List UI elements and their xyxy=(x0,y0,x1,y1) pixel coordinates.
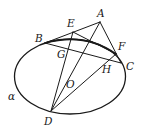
geometry-diagram: A E B F C G H O D α xyxy=(0,0,141,131)
label-o: O xyxy=(66,78,75,90)
label-d: D xyxy=(43,115,53,127)
label-c: C xyxy=(126,60,134,72)
label-g: G xyxy=(57,48,65,60)
label-h: H xyxy=(101,63,112,75)
label-b: B xyxy=(34,32,43,44)
segment-ed xyxy=(51,32,73,111)
ellipse-rim-arc-bf xyxy=(45,39,116,54)
label-f: F xyxy=(117,40,126,52)
segment-ad xyxy=(51,22,100,111)
label-a: A xyxy=(96,7,105,19)
label-e: E xyxy=(66,17,75,29)
label-plane-alpha: α xyxy=(8,90,15,102)
